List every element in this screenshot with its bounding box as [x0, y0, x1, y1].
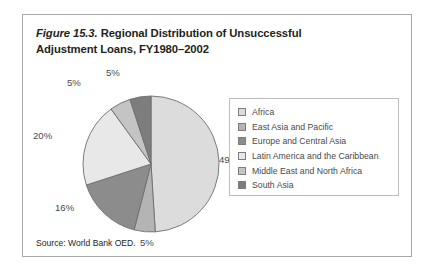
chart-legend: AfricaEast Asia and PacificEurope and Ce…: [229, 98, 399, 196]
pie-slice[interactable]: [151, 96, 219, 232]
slice-label-latin-america: 20%: [33, 130, 52, 141]
legend-item[interactable]: Middle East and North Africa: [238, 163, 394, 178]
legend-color-swatch: [238, 181, 246, 189]
legend-item-label: Middle East and North Africa: [252, 166, 362, 176]
legend-color-swatch: [238, 167, 246, 175]
source-note: Source: World Bank OED.: [36, 238, 136, 248]
legend-item-label: Latin America and the Caribbean: [252, 151, 379, 161]
slice-label-middle-east: 5%: [67, 77, 81, 88]
legend-color-swatch: [238, 152, 246, 160]
legend-color-swatch: [238, 108, 246, 116]
legend-item[interactable]: Europe and Central Asia: [238, 134, 394, 149]
legend-color-swatch: [238, 137, 246, 145]
slice-label-south-asia: 5%: [106, 67, 120, 78]
pie-slices: [83, 96, 219, 232]
slice-label-europe: 16%: [55, 202, 74, 213]
legend-item[interactable]: Africa: [238, 105, 394, 120]
slice-label-east-asia: 5%: [140, 237, 154, 248]
figure-frame: Figure 15.3. Regional Distribution of Un…: [22, 14, 412, 257]
legend-item[interactable]: South Asia: [238, 178, 394, 193]
legend-item-label: Europe and Central Asia: [252, 136, 346, 146]
legend-item-label: East Asia and Pacific: [252, 122, 333, 132]
legend-item-label: Africa: [252, 107, 274, 117]
legend-item[interactable]: Latin America and the Caribbean: [238, 149, 394, 164]
legend-item[interactable]: East Asia and Pacific: [238, 120, 394, 135]
pie-chart: [37, 67, 237, 247]
legend-item-list: AfricaEast Asia and PacificEurope and Ce…: [238, 105, 394, 193]
legend-color-swatch: [238, 123, 246, 131]
legend-item-label: South Asia: [252, 180, 294, 190]
